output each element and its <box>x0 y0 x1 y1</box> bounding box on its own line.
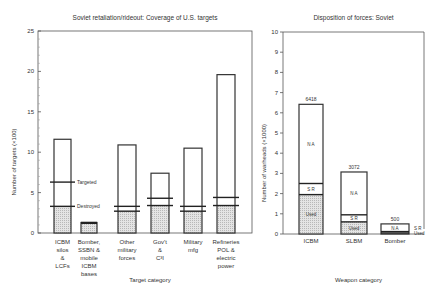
y-tick-label: 7 <box>275 90 279 96</box>
left-y-label: Number of targets (×100) <box>11 128 17 195</box>
x-tick-label: SLBM <box>346 238 362 244</box>
x-tick-label: power <box>218 263 234 269</box>
y-tick-label: 0 <box>275 231 279 237</box>
svg-text:N A: N A <box>350 191 357 196</box>
x-tick-label: mobile <box>80 255 98 261</box>
x-tick-label: electric <box>216 255 235 261</box>
right-x-label: Weapon category <box>335 277 382 283</box>
y-tick-label: 1 <box>275 211 279 217</box>
x-tick-label: mfg <box>188 247 198 253</box>
y-tick-label: 15 <box>27 109 34 115</box>
y-tick-label: 25 <box>27 28 34 34</box>
svg-text:Used: Used <box>306 212 317 217</box>
x-tick-label: C³I <box>156 255 164 261</box>
left-bar-0: ICBMsilos&LCFs <box>50 139 75 269</box>
left-chart-title: Soviet retaliation/rideout: Coverage of … <box>73 14 219 22</box>
svg-text:Used: Used <box>414 231 425 236</box>
y-tick-label: 5 <box>31 190 35 196</box>
x-tick-label: ICBM <box>82 263 97 269</box>
y-tick-label: 6 <box>275 110 279 116</box>
y-tick-label: 4 <box>275 150 279 156</box>
left-chart: Soviet retaliation/rideout: Coverage of … <box>11 14 252 283</box>
total-label: 3072 <box>348 164 359 170</box>
y-tick-label: 0 <box>31 230 35 236</box>
x-tick-label: & <box>158 247 162 253</box>
x-tick-label: Other <box>119 239 134 245</box>
x-tick-label: forces <box>119 255 135 261</box>
left-bar-5: RefineriesPOL &electricpower <box>212 75 239 269</box>
targeted-annotation: Targeted <box>77 179 97 185</box>
total-label: 6418 <box>305 96 316 102</box>
x-tick-label: Bomber <box>384 238 405 244</box>
x-tick-label: bases <box>81 271 97 277</box>
left-plot-frame <box>38 31 252 233</box>
x-tick-label: SSBN & <box>78 247 100 253</box>
x-tick-label: LCFs <box>55 263 69 269</box>
x-tick-label: Gov't <box>153 239 167 245</box>
svg-text:Used: Used <box>349 226 360 231</box>
right-bar-icbm: 6418ICBMN AS RUsed <box>299 96 323 244</box>
svg-text:S R: S R <box>307 187 315 192</box>
x-tick-label: silos <box>56 247 68 253</box>
x-tick-label: ICBM <box>55 239 70 245</box>
y-tick-label: 2 <box>275 191 279 197</box>
total-label: 500 <box>391 216 400 222</box>
y-tick-label: 10 <box>271 29 278 35</box>
svg-text:N A: N A <box>391 226 398 231</box>
x-tick-label: Refineries <box>212 239 239 245</box>
left-bar-2: Othermilitaryforces <box>114 145 140 261</box>
y-tick-label: 3 <box>275 170 279 176</box>
x-tick-label: & <box>60 255 64 261</box>
x-tick-label: military <box>118 247 137 253</box>
right-bar-slbm: 3072SLBMN AS RUsed <box>341 164 367 244</box>
right-chart-title: Disposition of forces: Soviet <box>313 14 393 22</box>
y-tick-label: 8 <box>275 69 279 75</box>
svg-text:N A: N A <box>307 142 314 147</box>
svg-text:S R: S R <box>350 216 358 221</box>
left-bar-3: Gov't&C³I <box>147 173 173 261</box>
x-tick-label: Bomber, <box>78 239 101 245</box>
left-bar-4: Militarymfg <box>180 148 206 253</box>
chart-figure: Soviet retaliation/rideout: Coverage of … <box>0 0 439 301</box>
right-bar-bomber: 500BomberN AS RUsed <box>381 216 425 244</box>
left-bar-1: Bomber,SSBN &mobileICBMbases <box>78 222 101 277</box>
y-tick-label: 5 <box>275 130 279 136</box>
right-y-label: Number of warheads (×1000) <box>261 124 267 202</box>
destroyed-annotation: Destroyed <box>77 203 100 209</box>
x-tick-label: Military <box>184 239 203 245</box>
y-tick-label: 10 <box>27 149 34 155</box>
left-x-label: Target category <box>129 277 170 283</box>
x-tick-label: ICBM <box>304 238 319 244</box>
x-tick-label: POL & <box>217 247 234 253</box>
y-tick-label: 9 <box>275 49 279 55</box>
y-tick-label: 20 <box>27 68 34 74</box>
right-chart: Disposition of forces: Soviet01234567891… <box>261 14 425 283</box>
